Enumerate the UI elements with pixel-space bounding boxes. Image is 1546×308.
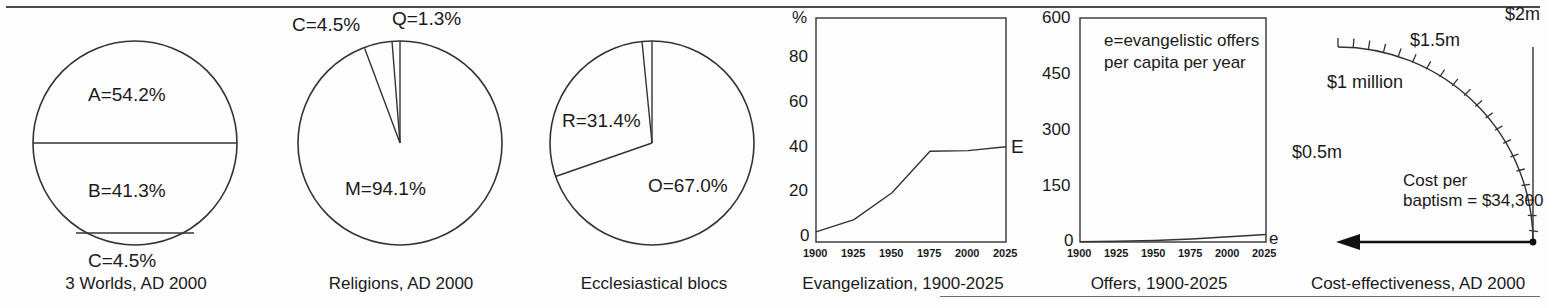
y-tick-150: 150: [1042, 176, 1070, 196]
y-tick-60: 60: [789, 92, 808, 112]
panel-ecclesiastical-blocs: R=31.4% O=67.0% Ecclesiastical blocs: [530, 0, 778, 308]
pie-slice-label-m-religions: M=94.1%: [345, 178, 426, 200]
pie-chart-three-worlds: [0, 0, 272, 280]
y-tick-0: 0: [800, 226, 809, 246]
arc-label-0-5m: $0.5m: [1292, 142, 1342, 163]
figure-canvas: A=54.2% B=41.3% C=4.5% 3 Worlds, AD 2000…: [0, 0, 1546, 308]
pie-slice-label-r: R=31.4%: [562, 110, 641, 132]
panel-three-worlds: A=54.2% B=41.3% C=4.5% 3 Worlds, AD 2000: [0, 0, 272, 308]
x-tick-1950: 1950: [1141, 247, 1165, 259]
pie-slice-label-a: A=54.2%: [88, 84, 166, 106]
panel-religions: C=4.5% Q=1.3% M=94.1% Religions, AD 2000: [272, 0, 530, 308]
x-tick-1975: 1975: [917, 247, 941, 259]
y-tick-80: 80: [789, 47, 808, 67]
x-tick-2025: 2025: [993, 247, 1017, 259]
pie-slice-label-c-religions: C=4.5%: [292, 14, 360, 36]
pie-chart-religions: [272, 0, 530, 280]
y-tick-20: 20: [789, 181, 808, 201]
pie-slice-label-o: O=67.0%: [648, 175, 728, 197]
y-tick-600: 600: [1042, 8, 1070, 28]
pie-slice-label-q-religions: Q=1.3%: [392, 8, 461, 30]
arc-label-1-million: $1 million: [1327, 72, 1403, 93]
arc-label-2m: $2m: [1505, 4, 1540, 25]
line-chart-evangelization: [778, 0, 1028, 280]
x-tick-1925: 1925: [841, 247, 865, 259]
y-tick-300: 300: [1042, 120, 1070, 140]
x-tick-2000: 2000: [1215, 247, 1239, 259]
panel-caption-ecclesiastical-blocs: Ecclesiastical blocs: [530, 274, 778, 294]
panel-caption-offers: Offers, 1900-2025: [1028, 274, 1290, 294]
series-label-e-evangelization: E: [1011, 136, 1024, 158]
panel-evangelization: % 80 60 40 20 0 1900 1925 1950 1975 2000…: [778, 0, 1028, 308]
pie-chart-ecclesiastical-blocs: [530, 0, 778, 280]
chart-annotation-line-1: e=evangelistic offers: [1104, 30, 1259, 51]
x-tick-1925: 1925: [1104, 247, 1128, 259]
x-tick-1900: 1900: [803, 247, 827, 259]
x-tick-1900: 1900: [1067, 247, 1091, 259]
panel-caption-evangelization: Evangelization, 1900-2025: [778, 274, 1028, 294]
x-tick-1975: 1975: [1178, 247, 1202, 259]
y-tick-40: 40: [789, 137, 808, 157]
pie-slice-label-b: B=41.3%: [88, 180, 166, 202]
panel-cost-effectiveness: $0.5m $1 million $1.5m $2m Cost per bapt…: [1290, 0, 1546, 308]
y-axis-unit-label: %: [792, 8, 807, 28]
panel-caption-three-worlds: 3 Worlds, AD 2000: [0, 274, 272, 294]
chart-annotation-line-2: per capita per year: [1104, 52, 1246, 73]
cost-note-line-1: Cost per: [1403, 170, 1467, 191]
y-tick-450: 450: [1042, 64, 1070, 84]
panel-caption-cost-effectiveness: Cost-effectiveness, AD 2000: [1290, 274, 1546, 294]
arc-label-1-5m: $1.5m: [1410, 30, 1460, 51]
series-label-e-offers: e: [1269, 229, 1278, 249]
pie-slice-label-c: C=4.5%: [88, 250, 156, 272]
panel-caption-religions: Religions, AD 2000: [272, 274, 530, 294]
x-tick-1950: 1950: [879, 247, 903, 259]
x-tick-2000: 2000: [955, 247, 979, 259]
cost-note-line-2: baptism = $34,300: [1403, 190, 1543, 211]
panel-offers: 600 450 300 150 0 1900 1925 1950 1975 20…: [1028, 0, 1290, 308]
